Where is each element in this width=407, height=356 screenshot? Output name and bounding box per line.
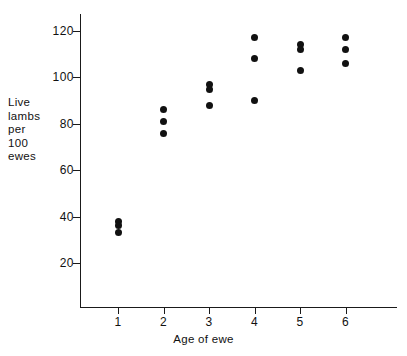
y-axis-line: [80, 14, 81, 308]
x-tick-6: [346, 307, 347, 314]
y-tick-80: [73, 124, 80, 125]
data-point: [206, 102, 213, 109]
y-tick-label-20: 20: [60, 257, 74, 269]
y-tick-label-100: 100: [52, 71, 74, 83]
data-point: [251, 55, 258, 62]
x-tick-5: [300, 307, 301, 314]
x-tick-label-5: 5: [285, 316, 315, 328]
x-axis-title: Age of ewe: [0, 333, 407, 345]
data-point: [160, 106, 167, 113]
data-point: [342, 34, 349, 41]
x-axis-line: [80, 307, 397, 308]
data-point: [297, 46, 304, 53]
data-point: [115, 229, 122, 236]
x-tick-3: [209, 307, 210, 314]
data-point: [342, 60, 349, 67]
data-point: [160, 118, 167, 125]
x-tick-label-2: 2: [149, 316, 179, 328]
x-tick-label-6: 6: [331, 316, 361, 328]
y-tick-label-60: 60: [60, 164, 74, 176]
y-tick-label-120: 120: [52, 25, 74, 37]
data-point: [115, 222, 122, 229]
y-tick-20: [73, 263, 80, 264]
y-tick-label-80: 80: [60, 118, 74, 130]
x-tick-label-3: 3: [194, 316, 224, 328]
y-tick-120: [73, 31, 80, 32]
y-tick-100: [73, 77, 80, 78]
data-point: [342, 46, 349, 53]
x-tick-2: [164, 307, 165, 314]
x-tick-1: [118, 307, 119, 314]
data-point: [251, 34, 258, 41]
x-tick-4: [255, 307, 256, 314]
data-point: [206, 86, 213, 93]
y-axis-title: Live lambs per 100 ewes: [8, 96, 40, 164]
y-tick-label-40: 40: [60, 211, 74, 223]
data-point: [251, 97, 258, 104]
y-tick-60: [73, 170, 80, 171]
scatter-plot: 20406080100120 123456 Live lambs per 100…: [0, 0, 407, 356]
data-point: [160, 130, 167, 137]
data-point: [297, 67, 304, 74]
x-tick-label-4: 4: [240, 316, 270, 328]
x-tick-label-1: 1: [103, 316, 133, 328]
y-tick-40: [73, 217, 80, 218]
